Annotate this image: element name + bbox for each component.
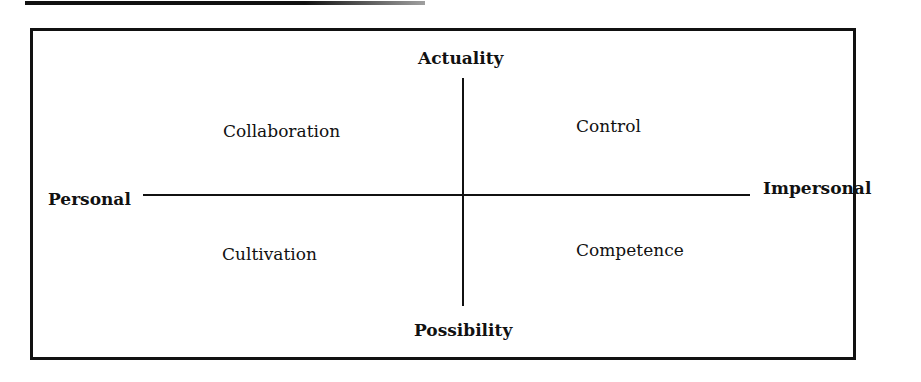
axis-label-impersonal: Impersonal [763, 178, 871, 198]
top-rule-divider [25, 1, 425, 5]
quadrant-label-competence: Competence [576, 240, 684, 260]
axis-label-actuality: Actuality [418, 48, 503, 68]
quadrant-label-control: Control [576, 116, 641, 136]
horizontal-axis-line [143, 194, 750, 196]
quadrant-label-cultivation: Cultivation [222, 244, 317, 264]
quadrant-label-collaboration: Collaboration [223, 121, 340, 141]
axis-label-possibility: Possibility [414, 320, 512, 340]
vertical-axis-line [462, 78, 464, 306]
axis-label-personal: Personal [48, 189, 131, 209]
